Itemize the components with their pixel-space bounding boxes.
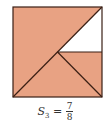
fraction-numerator: 7	[66, 101, 74, 112]
fraction-denominator: 8	[66, 112, 74, 122]
shaded-square-diagram	[0, 0, 111, 100]
fraction: 7 8	[66, 101, 74, 122]
sum-subscript: 3	[45, 112, 49, 120]
sum-variable: S	[38, 105, 46, 118]
sum-label: S3 = 7 8	[0, 101, 111, 122]
equals-sign: =	[53, 105, 62, 118]
